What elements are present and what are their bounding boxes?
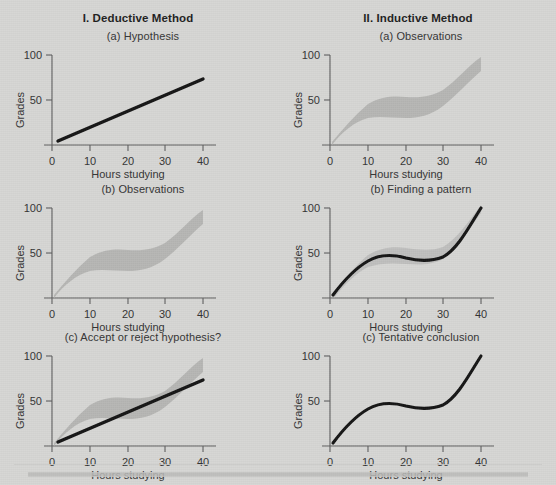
panel-deductive-c: (c) Accept or reject hypothesis? 100 50 … (4, 331, 282, 481)
y-axis-label-inductive-a: Grades (292, 92, 304, 128)
y-ticklabel-100: 100 (24, 202, 42, 214)
x-ticklabel-30: 30 (437, 456, 449, 468)
series-observation-band (334, 205, 481, 298)
y-ticklabel-50: 50 (308, 395, 320, 407)
x-ticklabel-20: 20 (400, 456, 412, 468)
plot-inductive-c: 100 50 0 10 20 30 40 Grades Hours studyi… (282, 347, 556, 481)
y-ticklabel-50: 50 (30, 395, 42, 407)
plot-deductive-a: 100 50 0 10 20 30 40 Grades Hours studyi… (4, 46, 282, 180)
y-axis-label-inductive-c: Grades (292, 393, 304, 429)
y-ticklabel-100: 100 (302, 49, 320, 61)
panel-title-inductive-b: (b) Finding a pattern (282, 183, 556, 195)
x-ticklabel-0: 0 (49, 155, 55, 167)
panel-inductive-a: (a) Observations 100 50 0 10 20 30 40 (282, 30, 556, 180)
plot-deductive-b: 100 50 0 10 20 30 40 Grades Hours studyi… (4, 199, 282, 333)
x-ticklabel-40: 40 (475, 456, 487, 468)
chart-inductive-c: 100 50 0 10 20 30 40 (282, 347, 556, 481)
panel-title-deductive-c: (c) Accept or reject hypothesis? (4, 331, 282, 343)
x-ticklabel-10: 10 (362, 456, 374, 468)
series-fitted-pattern (333, 356, 481, 443)
y-axis-label-deductive-b: Grades (14, 245, 26, 281)
x-ticklabel-30: 30 (159, 155, 171, 167)
x-ticklabel-10: 10 (84, 456, 96, 468)
figure-canvas: I. Deductive Method II. Inductive Method… (0, 0, 556, 485)
x-ticklabel-10: 10 (362, 155, 374, 167)
y-ticklabel-50: 50 (308, 247, 320, 259)
plot-inductive-a: 100 50 0 10 20 30 40 Grades Hours studyi… (282, 46, 556, 180)
plot-inductive-b: 100 50 0 10 20 30 40 Grades Hours studyi… (282, 199, 556, 333)
x-ticklabel-0: 0 (49, 456, 55, 468)
x-ticklabel-40: 40 (197, 456, 209, 468)
y-ticklabel-100: 100 (302, 202, 320, 214)
x-ticklabel-20: 20 (122, 456, 134, 468)
y-ticklabel-50: 50 (308, 94, 320, 106)
chart-inductive-a: 100 50 0 10 20 30 40 (282, 46, 556, 180)
chart-deductive-a: 100 50 0 10 20 30 40 (4, 46, 282, 180)
x-ticklabel-40: 40 (197, 308, 209, 320)
x-ticklabel-40: 40 (197, 155, 209, 167)
series-observation-band (332, 57, 481, 145)
x-axis-label-deductive-a: Hours studying (52, 168, 204, 180)
y-ticklabel-50: 50 (30, 94, 42, 106)
column-title-inductive: II. Inductive Method (318, 12, 518, 24)
x-ticklabel-0: 0 (327, 456, 333, 468)
panel-deductive-b: (b) Observations 100 50 0 10 20 30 40 (4, 183, 282, 333)
x-ticklabel-30: 30 (159, 308, 171, 320)
panel-title-deductive-a: (a) Hypothesis (4, 30, 282, 42)
y-ticklabel-100: 100 (24, 49, 42, 61)
x-ticklabel-0: 0 (327, 308, 333, 320)
panel-title-inductive-a: (a) Observations (282, 30, 556, 42)
series-hypothesis-line (58, 380, 203, 442)
y-ticklabel-100: 100 (302, 350, 320, 362)
y-axis-label-inductive-b: Grades (292, 245, 304, 281)
panel-inductive-c: (c) Tentative conclusion 100 50 0 10 20 … (282, 331, 556, 481)
panel-title-inductive-c: (c) Tentative conclusion (282, 331, 556, 343)
x-ticklabel-30: 30 (159, 456, 171, 468)
x-ticklabel-20: 20 (400, 308, 412, 320)
series-observation-band (54, 210, 203, 298)
x-ticklabel-10: 10 (84, 308, 96, 320)
footer-hairline (14, 464, 542, 465)
x-ticklabel-20: 20 (400, 155, 412, 167)
x-ticklabel-0: 0 (49, 308, 55, 320)
panel-inductive-b: (b) Finding a pattern 100 50 0 10 20 30 … (282, 183, 556, 333)
chart-deductive-b: 100 50 0 10 20 30 40 (4, 199, 282, 333)
chart-inductive-b: 100 50 0 10 20 30 40 (282, 199, 556, 333)
x-ticklabel-10: 10 (84, 155, 96, 167)
y-ticklabel-50: 50 (30, 247, 42, 259)
x-ticklabel-40: 40 (475, 155, 487, 167)
plot-deductive-c: 100 50 0 10 20 30 40 Grades Hours studyi… (4, 347, 282, 481)
panel-deductive-a: (a) Hypothesis 100 50 0 10 20 30 40 (4, 30, 282, 180)
column-title-deductive: I. Deductive Method (38, 12, 238, 24)
y-ticklabel-100: 100 (24, 350, 42, 362)
x-ticklabel-20: 20 (122, 308, 134, 320)
x-ticklabel-0: 0 (327, 155, 333, 167)
y-axis-label-deductive-c: Grades (14, 393, 26, 429)
x-ticklabel-10: 10 (362, 308, 374, 320)
x-ticklabel-30: 30 (437, 155, 449, 167)
footer-rule (28, 472, 528, 477)
x-ticklabel-20: 20 (122, 155, 134, 167)
y-axis-label-deductive-a: Grades (14, 92, 26, 128)
x-axis-label-inductive-a: Hours studying (330, 168, 482, 180)
chart-deductive-c: 100 50 0 10 20 30 40 (4, 347, 282, 481)
panel-title-deductive-b: (b) Observations (4, 183, 282, 195)
series-hypothesis-line (58, 79, 203, 141)
x-ticklabel-30: 30 (437, 308, 449, 320)
x-ticklabel-40: 40 (475, 308, 487, 320)
